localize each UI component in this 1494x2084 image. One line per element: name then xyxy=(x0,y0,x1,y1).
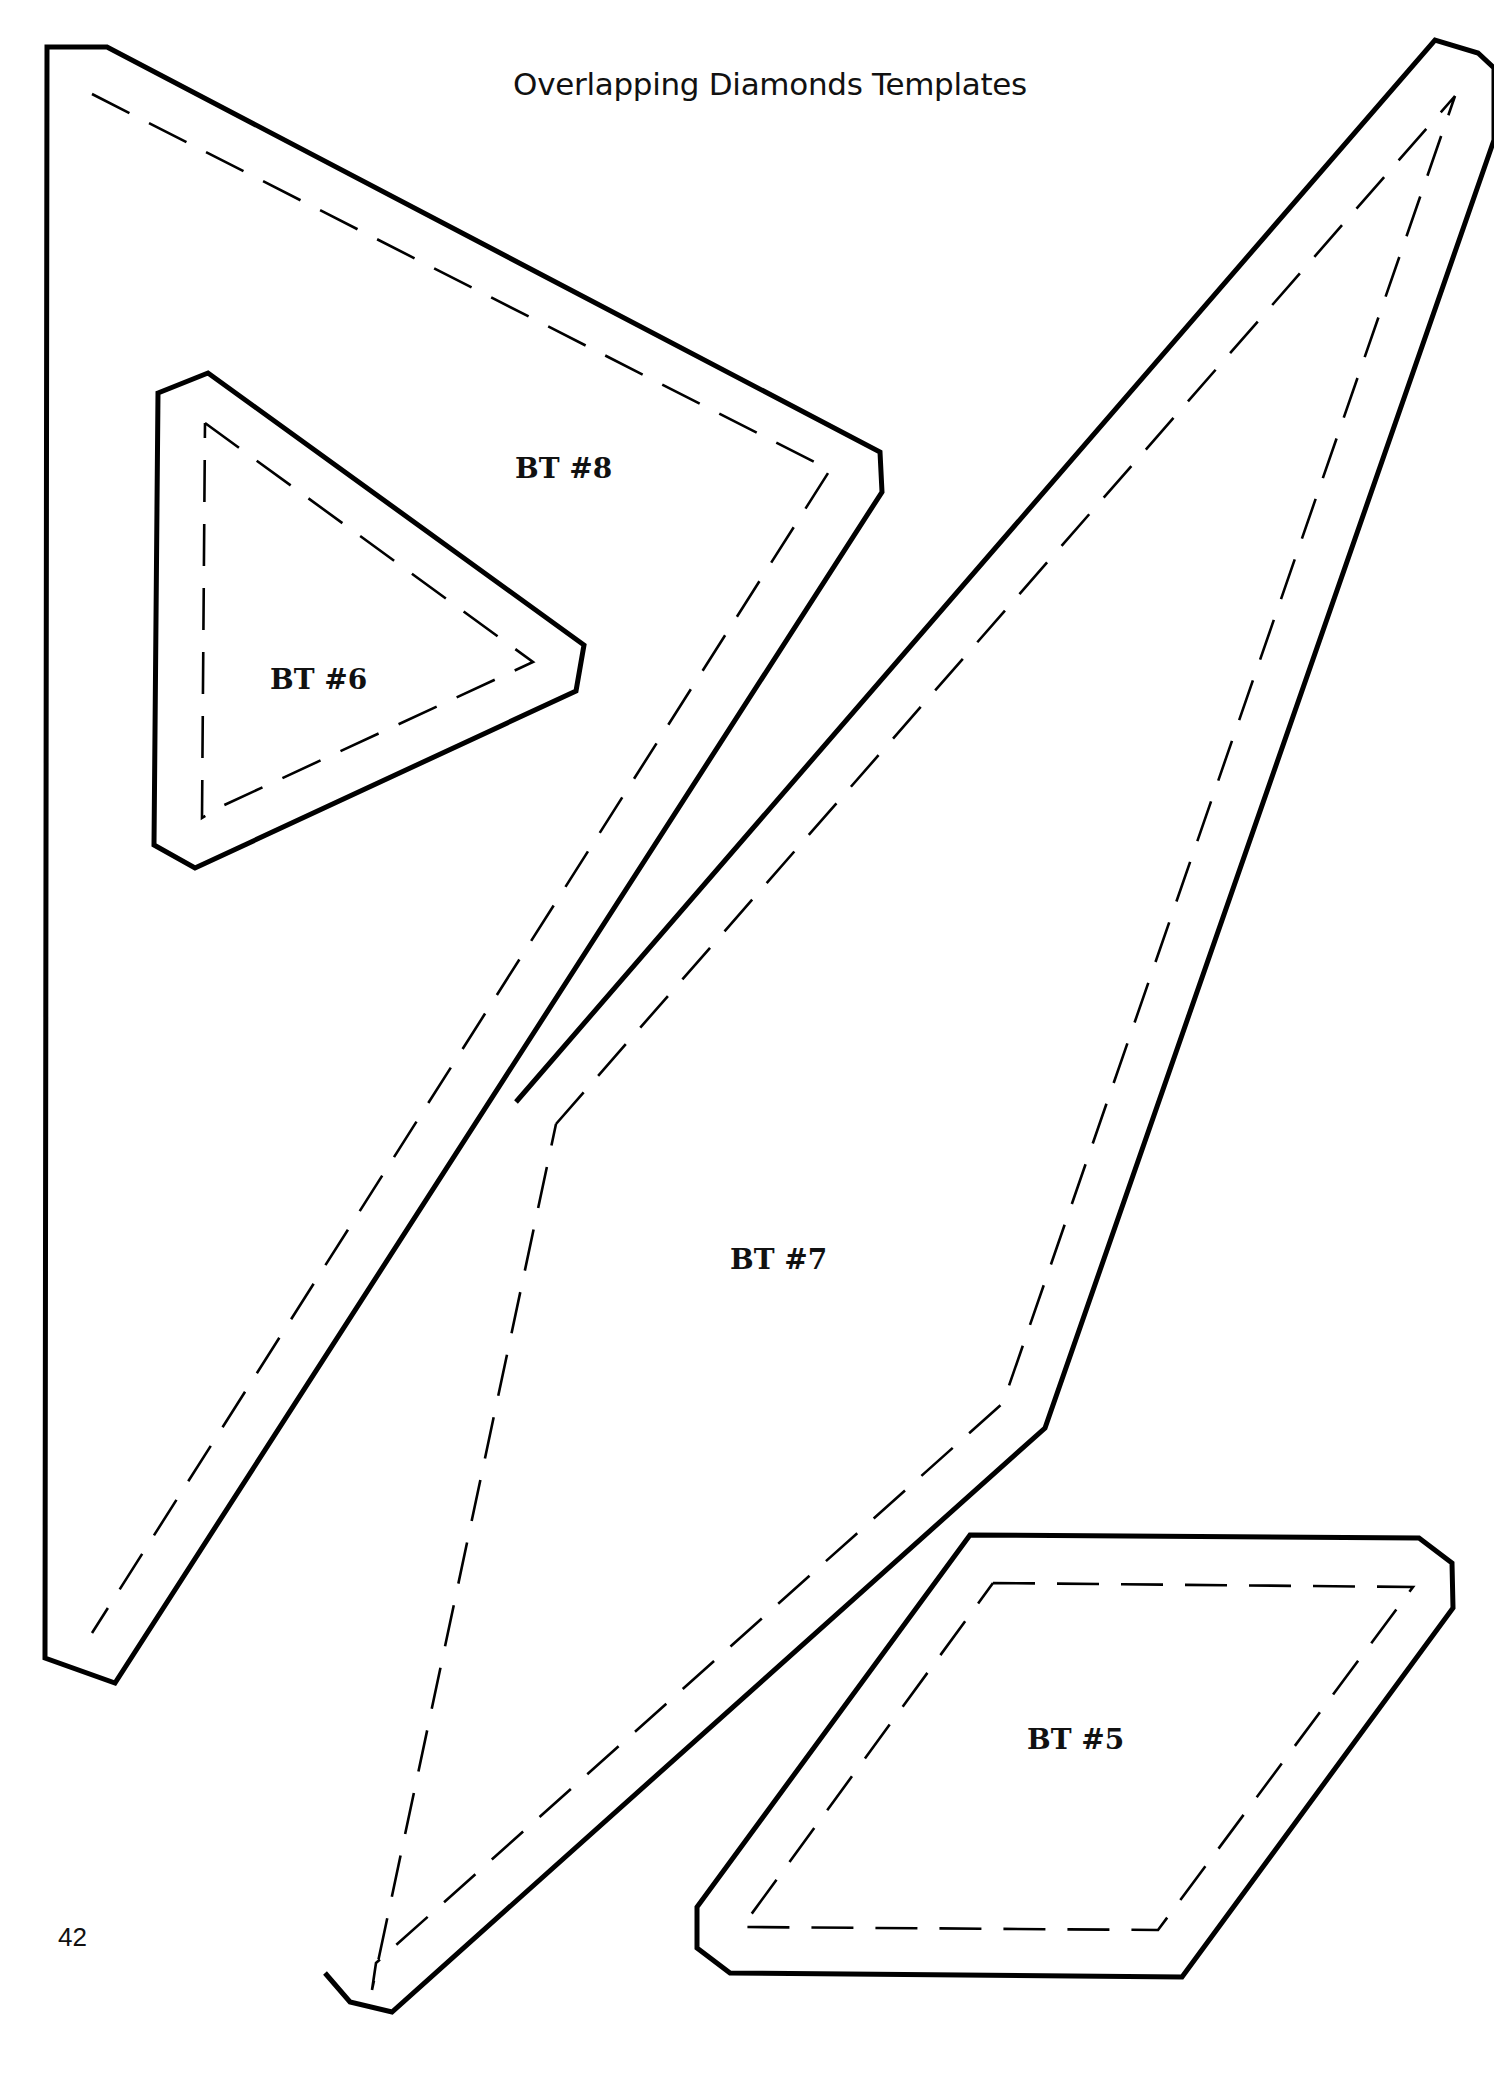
bt5-seam-line xyxy=(742,1583,1413,1930)
bt5-label: BT #5 xyxy=(1027,1723,1124,1756)
bt5-cut-line xyxy=(697,1535,1453,1977)
bt6-seam-line xyxy=(202,423,533,818)
template-bt7 xyxy=(325,40,1494,2012)
template-bt5 xyxy=(697,1535,1453,1977)
template-bt6 xyxy=(154,373,584,868)
bt6-cut-line xyxy=(154,373,584,868)
bt6-label: BT #6 xyxy=(270,663,367,696)
template-bt8 xyxy=(45,47,882,1683)
templates-drawing xyxy=(0,0,1494,2084)
bt8-cut-line xyxy=(45,47,882,1683)
bt7-seam-line xyxy=(372,96,1455,1990)
document-page: Overlapping Diamonds Templates BT #8 BT … xyxy=(0,0,1494,2084)
bt8-label: BT #8 xyxy=(515,452,612,485)
bt7-label: BT #7 xyxy=(730,1243,827,1276)
bt7-cut-line xyxy=(325,40,1494,2012)
page-number: 42 xyxy=(58,1922,87,1953)
